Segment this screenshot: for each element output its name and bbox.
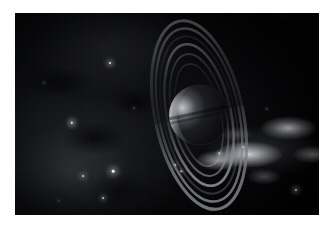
star-5 [102,197,104,199]
planet-globe [169,85,229,145]
star-4 [82,175,84,177]
image-frame [15,13,319,215]
star-2 [71,122,73,124]
star-7 [295,189,297,191]
ringed-planet-system [137,15,267,215]
star-14 [133,107,134,108]
page-root [0,0,332,231]
star-3 [112,170,115,173]
star-8 [43,82,44,83]
star-1 [109,62,111,64]
star-13 [58,200,59,201]
